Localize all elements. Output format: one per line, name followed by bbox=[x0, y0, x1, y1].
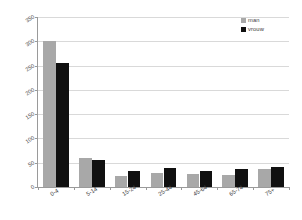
y-tick-label: 0 bbox=[4, 183, 36, 206]
legend-item-man[interactable]: man bbox=[241, 18, 264, 24]
y-tick-label: 300 bbox=[4, 38, 36, 61]
bar-group bbox=[181, 17, 217, 187]
legend-swatch-icon bbox=[241, 18, 246, 23]
legend-label: vrouw bbox=[248, 27, 264, 33]
bar-man-15-24[interactable] bbox=[115, 176, 128, 187]
y-tick-label: 100 bbox=[4, 135, 36, 158]
bar-man-65-74[interactable] bbox=[222, 175, 235, 187]
y-tick-label: 350 bbox=[4, 13, 36, 36]
legend-item-vrouw[interactable]: vrouw bbox=[241, 27, 264, 33]
bar-man-0-4[interactable] bbox=[43, 41, 56, 187]
x-tick-mark bbox=[217, 187, 218, 190]
x-tick-mark bbox=[110, 187, 111, 190]
bar-man-25-44[interactable] bbox=[151, 173, 164, 187]
bar-vrouw-0-4[interactable] bbox=[56, 63, 69, 187]
bar-group bbox=[110, 17, 146, 187]
bar-man-5-14[interactable] bbox=[79, 158, 92, 187]
bar-group bbox=[74, 17, 110, 187]
x-tick-label: 0-4 bbox=[49, 187, 60, 197]
x-tick-mark bbox=[181, 187, 182, 190]
bar-group bbox=[38, 17, 74, 187]
bar-group bbox=[217, 17, 253, 187]
y-tick-label: 200 bbox=[4, 86, 36, 109]
x-tick-mark bbox=[38, 187, 39, 190]
x-tick-mark bbox=[146, 187, 147, 190]
chart-legend: manvrouw bbox=[241, 18, 264, 33]
bar-man-45-64[interactable] bbox=[187, 174, 200, 187]
bar-chart: 350300250200150100500 0-45-1415-2425-444… bbox=[0, 0, 302, 220]
bar-vrouw-75+[interactable] bbox=[271, 167, 284, 187]
y-tick-label: 250 bbox=[4, 62, 36, 85]
x-tick-mark bbox=[289, 187, 290, 190]
x-tick-label: 75+ bbox=[264, 187, 276, 197]
x-tick-mark bbox=[253, 187, 254, 190]
legend-swatch-icon bbox=[241, 27, 246, 32]
bar-man-75+[interactable] bbox=[258, 169, 271, 187]
legend-label: man bbox=[248, 18, 260, 24]
bar-vrouw-5-14[interactable] bbox=[92, 160, 105, 187]
y-tick-label: 50 bbox=[4, 159, 36, 182]
bar-group bbox=[146, 17, 182, 187]
plot-area bbox=[37, 17, 289, 188]
y-tick-label: 150 bbox=[4, 111, 36, 134]
x-tick-mark bbox=[74, 187, 75, 190]
bar-group bbox=[253, 17, 289, 187]
